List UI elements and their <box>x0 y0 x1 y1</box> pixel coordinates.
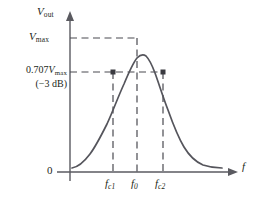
marker-fc1 <box>111 70 116 75</box>
vmax-sub: max <box>36 35 49 44</box>
fc2-sub: c2 <box>158 182 165 191</box>
half-power-prefix: 0.707 <box>26 64 49 75</box>
y-axis-arrowhead <box>66 11 74 21</box>
y-axis-label: Vout <box>37 5 54 20</box>
bandpass-response-figure: Vout Vmax 0.707Vmax (−3 dB) 0 fc1 f0 fc2… <box>0 0 259 201</box>
x-tick-label-f0: f0 <box>131 177 138 192</box>
vmax-main: V <box>29 30 36 42</box>
y-axis <box>66 11 74 181</box>
x-axis <box>57 168 238 176</box>
x-tick-label-fc1: fc1 <box>105 177 115 192</box>
origin-label: 0 <box>47 164 53 177</box>
f0-sub: 0 <box>134 182 138 191</box>
half-power-sub: max <box>55 69 67 76</box>
y-axis-label-main: V <box>37 5 44 17</box>
marker-fc2 <box>161 70 166 75</box>
x-axis-arrowhead <box>228 168 238 176</box>
x-axis-label: f <box>242 160 245 173</box>
y-tick-label-vmax: Vmax <box>29 30 49 45</box>
half-power-db-note: (−3 dB) <box>6 78 67 90</box>
y-axis-label-sub: out <box>44 10 54 19</box>
x-tick-label-fc2: fc2 <box>155 177 165 192</box>
fc1-sub: c1 <box>108 182 115 191</box>
y-tick-label-half-power: 0.707Vmax (−3 dB) <box>6 64 67 89</box>
